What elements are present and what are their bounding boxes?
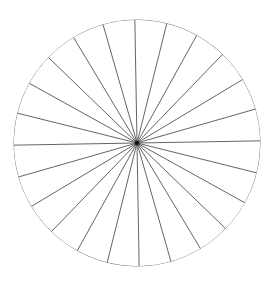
- pie-center: [135, 141, 139, 145]
- pie-chart: [0, 0, 274, 287]
